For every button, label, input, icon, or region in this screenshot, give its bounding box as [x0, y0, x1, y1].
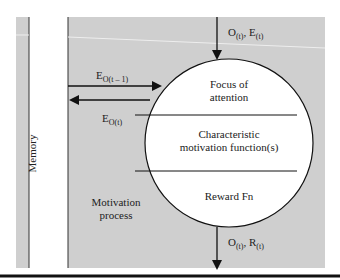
input-label: O(t), E(t) [228, 26, 263, 43]
memory-label: Memory [26, 124, 39, 184]
output-label: O(t), R(t) [228, 236, 264, 253]
memory-label-wrap: Memory [22, 125, 36, 185]
eo-label: EO(t) [102, 112, 122, 129]
section-characteristic: Characteristic motivation function(s) [150, 128, 308, 154]
section-focus: Focus of attention [170, 78, 288, 104]
motivation-process-label: Motivation process [80, 196, 152, 222]
eo-prev-label: EO(t – 1) [96, 69, 128, 86]
section-reward: Reward Fn [170, 190, 288, 203]
